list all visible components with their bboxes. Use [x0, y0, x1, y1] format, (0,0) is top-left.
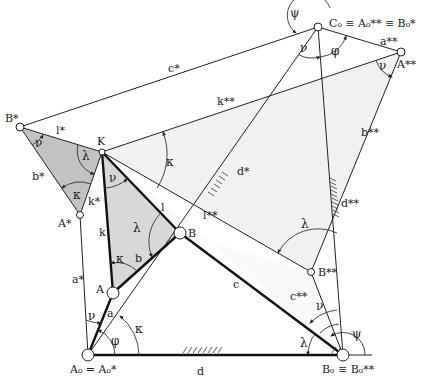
- label-k: K: [97, 135, 106, 148]
- label-link-c: c: [233, 278, 239, 291]
- label-link-a-double-star: a**: [380, 35, 398, 48]
- angle-arc-lambda-b0: [308, 334, 315, 355]
- label-a: A: [95, 283, 105, 296]
- label-b: B: [188, 227, 196, 240]
- label-angle-nu-c0: ν: [300, 41, 307, 55]
- label-a-double-star: A**: [396, 58, 416, 71]
- label-angle-kappa-a0: κ: [135, 322, 143, 336]
- label-link-d-star: d*: [237, 165, 250, 178]
- label-angle-kappa-a-star: κ: [73, 188, 81, 202]
- label-angle-kappa-a: κ: [116, 252, 124, 266]
- label-c0: C₀ ≡ A₀** ≡ B₀*: [329, 17, 416, 30]
- label-b-star: B*: [5, 112, 19, 125]
- label-angle-phi-a0: φ: [111, 334, 119, 348]
- label-link-k-double-star: k**: [217, 95, 235, 108]
- label-angle-nu-k: ν: [109, 171, 116, 185]
- label-link-c-star: c*: [168, 62, 180, 75]
- joint-a: [107, 287, 119, 299]
- label-link-b-star: b*: [32, 170, 45, 183]
- label-link-k: k: [99, 226, 106, 239]
- label-angle-phi-c0: φ: [331, 44, 339, 58]
- joint-a0: [82, 349, 94, 361]
- joint-a-double-star: [397, 48, 405, 56]
- label-angle-nu-a-double-star: ν: [379, 59, 386, 73]
- joint-b0: [337, 349, 349, 361]
- angle-arc-nu-c0: [299, 55, 320, 58]
- label-angle-nu-b0: ν: [316, 299, 323, 313]
- ground-hatch-d: [183, 347, 341, 353]
- label-b-double-star: B**: [318, 266, 338, 279]
- label-angle-nu-b-star: ν: [35, 136, 42, 150]
- label-link-d-double-star: d**: [341, 197, 360, 210]
- label-a-star: A*: [57, 217, 72, 230]
- joint-c0: [314, 23, 322, 31]
- label-link-c-double-star: c**: [290, 290, 308, 303]
- joint-k: [99, 149, 105, 155]
- label-link-d: d: [197, 365, 204, 378]
- label-link-b: b: [135, 252, 142, 265]
- label-angle-nu-a0: ν: [88, 309, 95, 323]
- four-bar-cognate-diagram: C₀ ≡ A₀** ≡ B₀* A** B* K A* A B B** A₀ =…: [0, 0, 425, 382]
- label-angle-lambda-b-double-star: λ: [301, 217, 309, 231]
- label-angle-lambda-b: λ: [133, 221, 141, 235]
- label-link-b-double-star: b**: [361, 126, 380, 139]
- label-angle-psi-b0: ψ: [352, 327, 361, 341]
- label-angle-kappa-k: κ: [166, 155, 174, 169]
- label-link-l-double-star: l**: [203, 209, 218, 222]
- label-b0: B₀ ≡ B₀**: [322, 363, 375, 376]
- label-link-a-star: a*: [72, 273, 85, 286]
- label-link-k-star: k*: [88, 195, 101, 208]
- label-link-l: l: [161, 201, 165, 214]
- label-link-a: a: [107, 307, 114, 320]
- label-angle-lambda-k-star: λ: [82, 149, 90, 163]
- joint-a-star: [77, 212, 84, 219]
- label-angle-psi-c0: ψ: [290, 6, 299, 20]
- joint-b-double-star: [308, 269, 315, 276]
- label-a0: A₀ = A₀*: [69, 363, 117, 376]
- label-angle-lambda-b0: λ: [300, 336, 308, 350]
- joint-b: [174, 227, 186, 239]
- label-link-l-star: l*: [56, 124, 66, 137]
